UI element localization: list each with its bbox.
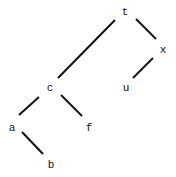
edge-t-c xyxy=(58,20,115,78)
edges-layer xyxy=(0,0,176,177)
node-f: f xyxy=(83,122,95,134)
node-c: c xyxy=(44,82,56,94)
edge-t-x xyxy=(136,19,156,39)
edge-c-a xyxy=(19,97,39,115)
tree-diagram: t x u c f a b xyxy=(0,0,176,177)
node-u: u xyxy=(120,82,132,94)
edge-a-b xyxy=(22,132,43,154)
node-a: a xyxy=(6,122,18,134)
node-x: x xyxy=(157,44,169,56)
node-b: b xyxy=(45,159,57,171)
edge-x-u xyxy=(133,58,153,78)
edge-c-f xyxy=(61,95,82,116)
node-t: t xyxy=(119,6,131,18)
